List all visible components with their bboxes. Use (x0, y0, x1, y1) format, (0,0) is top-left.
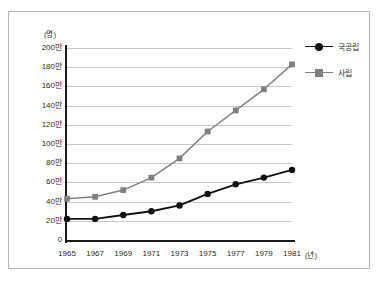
legend-swatch-public (305, 42, 333, 52)
legend-label-private: 사립 (338, 67, 352, 78)
chart-figure: (명) 020만40만60만80만100만120만140만160만180만200… (0, 0, 385, 283)
legend-item-public[interactable]: 국공립 (305, 40, 377, 53)
x-axis-unit-label: (년) (305, 249, 317, 260)
legend-swatch-private (305, 68, 333, 78)
chart-legend: 국공립 사립 (305, 40, 377, 92)
legend-label-public: 국공립 (338, 41, 359, 52)
circle-marker-icon (315, 43, 323, 51)
legend-item-private[interactable]: 사립 (305, 66, 377, 79)
square-marker-icon (315, 69, 323, 77)
